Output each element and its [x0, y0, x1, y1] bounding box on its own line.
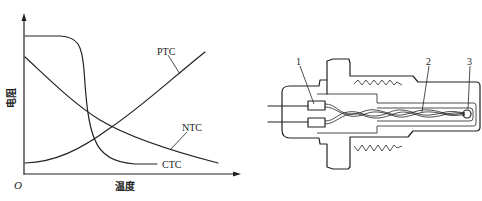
callout-2: 2 [426, 56, 431, 67]
callout-1-leader [300, 66, 314, 104]
y-axis-arrow-icon [22, 13, 27, 21]
sensor-cross-section: 1 2 3 [268, 56, 480, 169]
callout-3-leader [468, 66, 470, 109]
ctc-curve [25, 36, 157, 164]
terminal-block-top [308, 101, 325, 110]
thread-top [354, 80, 402, 85]
thread-bottom [354, 145, 402, 151]
ptc-leader-line [168, 55, 180, 74]
figure: O 温度 电阻 PTC NTC CTC [0, 0, 482, 201]
y-axis [22, 13, 27, 174]
y-axis-label: 电阻 [5, 88, 17, 108]
ctc-label: CTC [162, 159, 182, 170]
ptc-label: PTC [157, 46, 176, 57]
x-axis-arrow-icon [233, 172, 241, 177]
callout-1: 1 [296, 56, 301, 67]
callout-2-leader [422, 66, 429, 112]
ptc-curve [25, 52, 205, 163]
ntc-label: NTC [182, 122, 202, 133]
terminal-block-bottom [308, 118, 325, 127]
thermistor-bead [463, 110, 471, 118]
x-axis-label: 温度 [115, 180, 136, 192]
resistance-temperature-chart: O 温度 电阻 PTC NTC CTC [5, 13, 241, 192]
callout-3: 3 [467, 56, 472, 67]
ntc-leader-line [170, 132, 187, 150]
x-axis [24, 172, 241, 177]
ntc-curve [25, 57, 218, 163]
origin-label: O [14, 179, 22, 191]
